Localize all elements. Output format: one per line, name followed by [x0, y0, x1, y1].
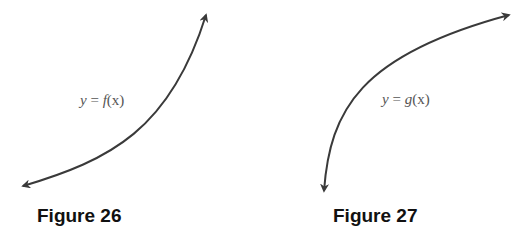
figure-27-caption: Figure 27 [333, 205, 417, 227]
f-label: y = f(x) [78, 92, 124, 109]
figures-canvas: y = f(x) y = g(x) [0, 0, 525, 233]
figure-27-graph: y = g(x) [324, 15, 509, 191]
figure-26-graph: y = f(x) [23, 15, 206, 186]
g-label: y = g(x) [380, 91, 430, 108]
figure-26-caption: Figure 26 [37, 205, 121, 227]
